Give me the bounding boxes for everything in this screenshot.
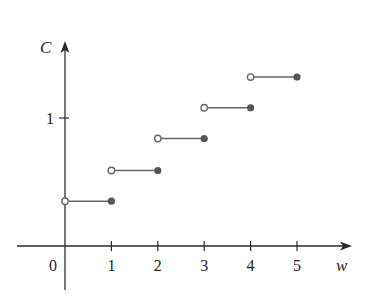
x-tick-label-1: 1 [107,257,115,274]
x-tick-label-3: 3 [200,257,208,274]
y-axis-label: C [40,38,52,57]
axis-labels: C w 0 1 12345 [40,38,348,275]
step-function-chart: C w 0 1 12345 [0,0,370,308]
x-axis-label: w [336,256,348,275]
step-series [62,73,301,204]
y-tick-label-1: 1 [46,110,54,127]
axes [17,41,352,290]
closed-endpoint-icon [154,167,161,174]
origin-label: 0 [49,257,57,274]
closed-endpoint-icon [247,104,254,111]
x-tick-label-2: 2 [154,257,162,274]
open-endpoint-icon [62,198,68,204]
open-endpoint-icon [201,105,207,111]
closed-endpoint-icon [201,135,208,142]
x-tick-label-5: 5 [293,257,301,274]
open-endpoint-icon [108,167,114,173]
open-endpoint-icon [155,135,161,141]
closed-endpoint-icon [108,198,115,205]
open-endpoint-icon [247,74,253,80]
closed-endpoint-icon [293,73,300,80]
x-tick-label-4: 4 [247,257,255,274]
